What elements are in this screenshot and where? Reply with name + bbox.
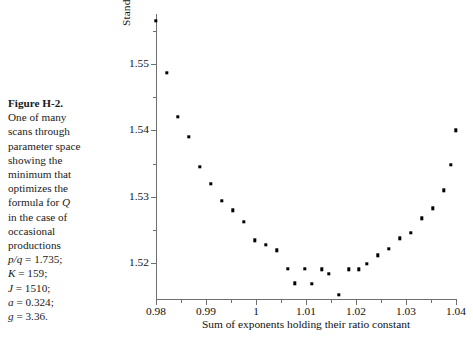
y-axis-label-text: Standard deviation from linear bbox=[120, 0, 132, 26]
caption-formula-prefix: formula for bbox=[8, 196, 62, 208]
caption-symbol-q: Q bbox=[62, 196, 70, 208]
data-point bbox=[449, 163, 452, 166]
x-axis-tick-label: 1.02 bbox=[346, 306, 366, 317]
x-axis-tick-label: 1 bbox=[253, 306, 259, 317]
y-axis-tick-label: 1.52 bbox=[129, 257, 149, 268]
data-point bbox=[347, 268, 350, 271]
x-axis-tick-label: 1.04 bbox=[446, 306, 466, 317]
caption-line: occasional bbox=[8, 224, 108, 238]
parameter-row: K = 159; bbox=[8, 266, 108, 280]
data-point bbox=[231, 209, 234, 212]
x-axis-minor-tick bbox=[381, 299, 382, 303]
data-point bbox=[303, 267, 306, 270]
parameter-value: = 159; bbox=[18, 267, 47, 279]
y-axis-tick-label: 1.55 bbox=[129, 58, 149, 69]
caption-line: optimizes the bbox=[8, 181, 108, 195]
data-point bbox=[420, 216, 423, 219]
x-axis-minor-tick bbox=[281, 299, 282, 303]
parameter-value: = 1.735; bbox=[25, 253, 62, 265]
parameter-symbol: p/q bbox=[8, 253, 22, 265]
caption-line: in the case of bbox=[8, 210, 108, 224]
data-point bbox=[165, 71, 168, 74]
parameter-value: = 3.36. bbox=[16, 310, 47, 322]
data-point bbox=[286, 267, 289, 270]
figure-number: Figure H-2. bbox=[8, 96, 108, 110]
parameter-value: = 0.324; bbox=[16, 296, 53, 308]
parameter-symbol: K bbox=[8, 267, 15, 279]
data-point bbox=[275, 248, 278, 251]
x-axis-minor-tick bbox=[181, 299, 182, 303]
y-axis-tick-label: 1.53 bbox=[129, 191, 149, 202]
parameter-symbol: J bbox=[8, 282, 13, 294]
figure-page: Figure H-2. One of many scans through pa… bbox=[0, 0, 473, 346]
data-point bbox=[209, 182, 212, 185]
data-point bbox=[454, 129, 457, 132]
y-axis-tick bbox=[151, 197, 157, 198]
data-point bbox=[264, 243, 267, 246]
data-point bbox=[154, 19, 157, 22]
data-point bbox=[365, 262, 368, 265]
caption-line: minimum that bbox=[8, 167, 108, 181]
parameter-symbol: a bbox=[8, 296, 14, 308]
parameter-row: g = 3.36. bbox=[8, 309, 108, 323]
data-point bbox=[398, 236, 401, 239]
parameter-symbol: g bbox=[8, 310, 14, 322]
parameter-row: J = 1510; bbox=[8, 281, 108, 295]
y-axis-tick bbox=[151, 263, 157, 264]
x-axis-tick-label: 1.03 bbox=[396, 306, 416, 317]
x-axis-tick-label: 1.01 bbox=[296, 306, 316, 317]
data-point bbox=[337, 293, 340, 296]
y-axis-minor-tick bbox=[153, 230, 157, 231]
caption-line: scans through bbox=[8, 124, 108, 138]
x-axis-minor-tick bbox=[331, 299, 332, 303]
data-point bbox=[220, 199, 223, 202]
plot-frame: 1.521.531.541.550.980.9911.011.021.031.0… bbox=[156, 14, 456, 300]
x-axis-tick-label: 0.98 bbox=[146, 306, 166, 317]
caption-line: parameter space bbox=[8, 139, 108, 153]
x-axis-tick-label: 0.99 bbox=[196, 306, 216, 317]
y-axis-label: Standard deviation from linear Q bbox=[120, 0, 132, 26]
y-axis-tick bbox=[151, 130, 157, 131]
data-point bbox=[320, 268, 323, 271]
caption-line-formula: formula for Q bbox=[8, 195, 108, 209]
data-point bbox=[176, 115, 179, 118]
parameter-value: = 1510; bbox=[16, 282, 51, 294]
x-axis-label: Sum of exponents holding their ratio con… bbox=[156, 318, 456, 330]
caption-line: showing the bbox=[8, 153, 108, 167]
data-point bbox=[409, 231, 412, 234]
data-point bbox=[327, 272, 330, 275]
scatter-plot: Standard deviation from linear Q 1.521.5… bbox=[128, 8, 468, 338]
y-axis-minor-tick bbox=[153, 31, 157, 32]
data-point bbox=[253, 238, 256, 241]
y-axis-minor-tick bbox=[153, 97, 157, 98]
caption-parameters: p/q = 1.735; K = 159; J = 1510; a = 0.32… bbox=[8, 252, 108, 323]
data-point bbox=[431, 207, 434, 210]
x-axis-minor-tick bbox=[231, 299, 232, 303]
caption-line: productions bbox=[8, 238, 108, 252]
data-point bbox=[357, 268, 360, 271]
y-axis-tick bbox=[151, 64, 157, 65]
figure-caption: Figure H-2. One of many scans through pa… bbox=[8, 96, 108, 323]
y-axis-minor-tick bbox=[153, 164, 157, 165]
caption-line: One of many bbox=[8, 110, 108, 124]
data-point bbox=[198, 165, 201, 168]
data-point bbox=[187, 135, 190, 138]
data-point bbox=[310, 282, 313, 285]
data-point bbox=[442, 189, 445, 192]
data-point bbox=[293, 282, 296, 285]
y-axis-line bbox=[156, 14, 157, 300]
data-point bbox=[387, 247, 390, 250]
data-point bbox=[376, 254, 379, 257]
data-point bbox=[242, 220, 245, 223]
parameter-row: p/q = 1.735; bbox=[8, 252, 108, 266]
parameter-row: a = 0.324; bbox=[8, 295, 108, 309]
x-axis-minor-tick bbox=[431, 299, 432, 303]
y-axis-tick-label: 1.54 bbox=[129, 124, 149, 135]
